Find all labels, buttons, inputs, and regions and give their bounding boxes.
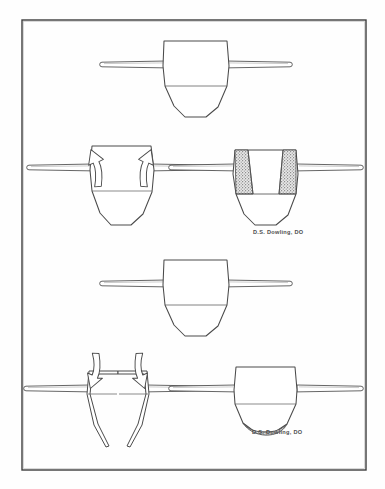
signature-upper: D.S. Dowling, DO — [253, 229, 304, 235]
rod-left — [169, 164, 235, 171]
rod-left — [27, 164, 93, 171]
signature-lower: D.S. Dowling, DO — [252, 429, 303, 435]
rod-right — [226, 280, 292, 287]
rod-left — [24, 385, 90, 392]
sacral-mechanics-plate: D.S. Dowling, DO — [0, 0, 385, 489]
rod-left — [169, 385, 235, 392]
rod-left — [100, 280, 166, 287]
rod-right — [226, 61, 292, 68]
rod-left — [100, 61, 166, 68]
rod-right — [297, 385, 363, 392]
sacrum-body — [234, 367, 297, 432]
rod-right — [297, 164, 363, 171]
